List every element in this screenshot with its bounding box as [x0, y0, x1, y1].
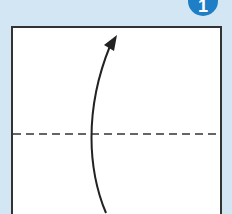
paper-square	[12, 27, 221, 214]
diagram-canvas	[0, 0, 232, 214]
origami-diagram: 1	[0, 0, 232, 214]
